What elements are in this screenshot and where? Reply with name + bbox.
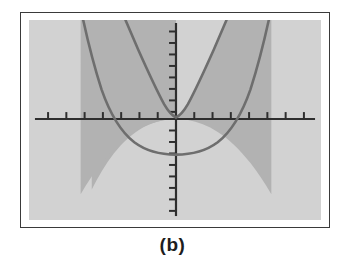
figure-panel: (b)	[0, 0, 345, 267]
plot-canvas	[29, 20, 321, 220]
plot-frame	[20, 12, 330, 228]
graph-svg	[29, 20, 321, 220]
figure-caption: (b)	[0, 234, 345, 256]
